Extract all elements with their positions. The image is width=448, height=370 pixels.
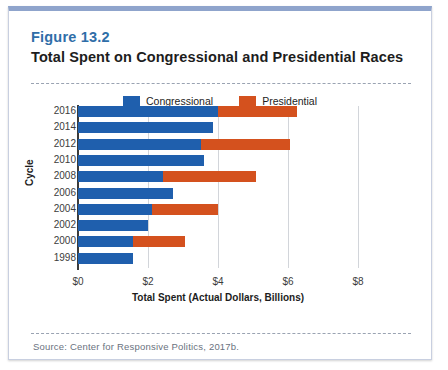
- legend-item-congressional: Congressional: [123, 95, 213, 107]
- divider-top: [31, 83, 411, 84]
- figure-header: Figure 13.2 Total Spent on Congressional…: [31, 29, 411, 65]
- legend-swatch-congressional: [123, 96, 140, 107]
- figure-source: Source: Center for Responsive Politics, …: [33, 341, 239, 352]
- figure-number: Figure 13.2: [31, 29, 411, 45]
- legend-label-presidential: Presidential: [262, 95, 317, 107]
- legend-label-congressional: Congressional: [146, 95, 213, 107]
- chart-legend: Congressional Presidential: [9, 95, 431, 107]
- legend-swatch-presidential: [239, 96, 256, 107]
- figure-card: Figure 13.2 Total Spent on Congressional…: [8, 6, 432, 360]
- divider-bottom: [31, 333, 411, 334]
- figure-title: Total Spent on Congressional and Preside…: [31, 49, 411, 65]
- legend-item-presidential: Presidential: [239, 95, 317, 107]
